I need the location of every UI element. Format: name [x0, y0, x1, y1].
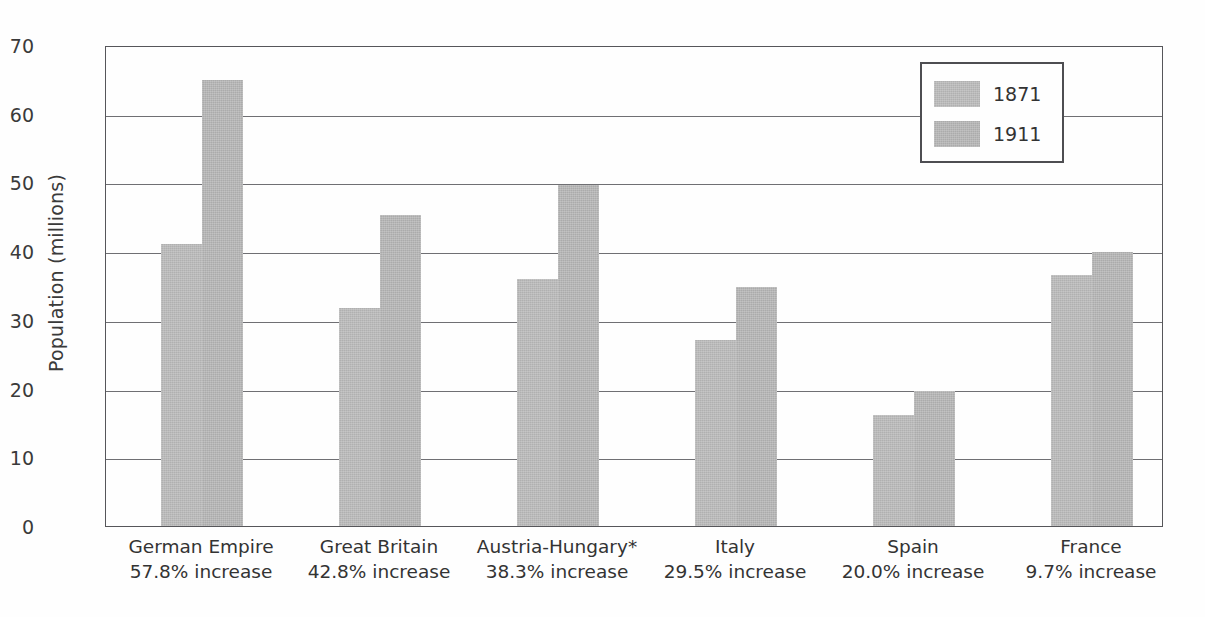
y-axis-title: Population (millions)	[45, 123, 67, 423]
category-increase: 9.7% increase	[1002, 559, 1180, 584]
bar	[558, 185, 599, 527]
legend-entry-1871: 1871	[934, 74, 1062, 114]
category-name: German Empire	[112, 534, 290, 559]
bar	[695, 340, 736, 526]
category-name: France	[1002, 534, 1180, 559]
x-axis-category-label: German Empire57.8% increase	[112, 534, 290, 584]
y-tick-label: 10	[0, 447, 34, 469]
bar	[873, 415, 914, 526]
x-axis-category-label: Great Britain42.8% increase	[290, 534, 468, 584]
y-tick-label: 40	[0, 241, 34, 263]
y-tick-label: 60	[0, 104, 34, 126]
y-tick-label: 70	[0, 35, 34, 57]
y-tick-label: 20	[0, 379, 34, 401]
bar	[202, 80, 243, 526]
category-name: Italy	[646, 534, 824, 559]
bar	[914, 391, 955, 526]
x-axis-category-label: Austria-Hungary*38.3% increase	[468, 534, 646, 584]
bar	[1092, 252, 1133, 526]
x-axis-category-label: France9.7% increase	[1002, 534, 1180, 584]
legend-entry-1911: 1911	[934, 114, 1062, 154]
category-increase: 38.3% increase	[468, 559, 646, 584]
bar	[161, 244, 202, 526]
category-increase: 42.8% increase	[290, 559, 468, 584]
legend-swatch-1871	[934, 81, 980, 107]
legend-swatch-1911	[934, 121, 980, 147]
x-axis-category-label: Italy29.5% increase	[646, 534, 824, 584]
bar	[380, 215, 421, 526]
category-increase: 29.5% increase	[646, 559, 824, 584]
category-name: Austria-Hungary*	[468, 534, 646, 559]
category-name: Spain	[824, 534, 1002, 559]
legend: 1871 1911	[920, 62, 1064, 163]
category-name: Great Britain	[290, 534, 468, 559]
bar	[339, 308, 380, 526]
category-increase: 57.8% increase	[112, 559, 290, 584]
y-tick-label: 30	[0, 310, 34, 332]
x-axis-category-labels: German Empire57.8% increaseGreat Britain…	[105, 534, 1163, 604]
y-tick-label: 50	[0, 172, 34, 194]
legend-label-1911: 1911	[993, 123, 1041, 145]
x-axis-category-label: Spain20.0% increase	[824, 534, 1002, 584]
chart-screen: Population (millions) 010203040506070 18…	[0, 0, 1205, 617]
y-tick-label: 0	[0, 516, 34, 538]
bar	[1051, 275, 1092, 526]
category-increase: 20.0% increase	[824, 559, 1002, 584]
bar	[517, 279, 558, 526]
bar	[736, 287, 777, 526]
legend-label-1871: 1871	[993, 83, 1041, 105]
